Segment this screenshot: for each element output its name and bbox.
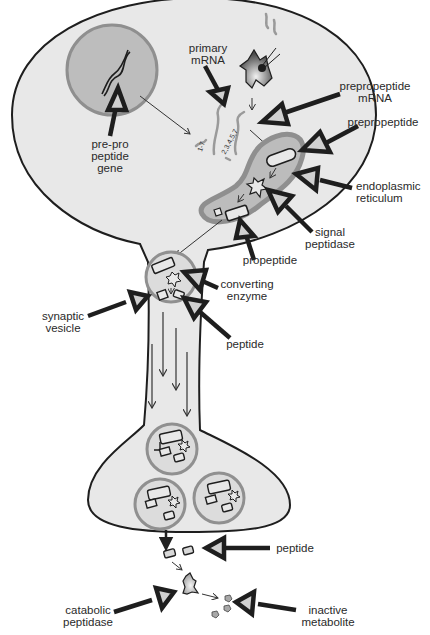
label-inactive-metabolite: inactive metabolite: [298, 604, 358, 628]
label-endoplasmic-reticulum: endoplasmic reticulum: [356, 180, 426, 204]
terminal-vesicle-1: [147, 424, 197, 474]
inactive-metabolite-shapes: [212, 595, 232, 618]
label-prepropeptide-mrna: prepropeptide mRNA: [330, 80, 420, 104]
label-signal-peptidase: signal peptidase: [300, 226, 360, 250]
label-peptide-axon: peptide: [220, 338, 270, 350]
terminal-vesicle-3: [194, 473, 244, 523]
label-prepropeptide: prepropeptide: [338, 116, 428, 128]
label-peptide-released: peptide: [270, 542, 320, 554]
label-converting-enzyme: converting enzyme: [212, 278, 282, 302]
label-propeptide: propeptide: [230, 254, 310, 266]
label-synaptic-vesicle: synaptic vesicle: [36, 310, 90, 334]
catabolic-peptidase-icon: [183, 573, 198, 594]
terminal-vesicle-2: [135, 479, 185, 529]
label-gene: pre-pro peptide gene: [80, 138, 140, 174]
label-catabolic-peptidase: catabolic peptidase: [58, 604, 118, 628]
label-primary-mrna: primary mRNA: [178, 42, 238, 66]
released-peptide-shape: [163, 549, 175, 559]
